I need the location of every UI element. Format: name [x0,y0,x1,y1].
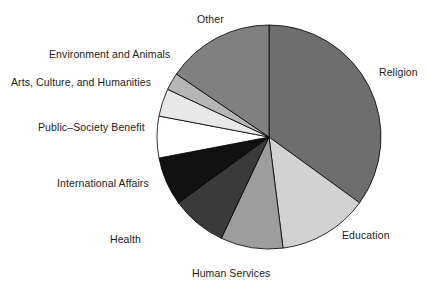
pie-label-health: Health [110,233,141,245]
pie-chart-canvas [0,0,429,289]
pie-label-education: Education [342,229,390,241]
pie-label-public-society-benefit: Public–Society Benefit [38,121,145,133]
pie-slices-group [157,25,381,249]
pie-label-international-affairs: International Affairs [57,177,149,189]
pie-chart-figure: Religion Education Human Services Health… [0,0,429,289]
pie-label-other: Other [197,13,224,25]
pie-label-human-services: Human Services [192,267,270,279]
pie-label-environment-animals: Environment and Animals [49,48,170,60]
pie-label-arts-culture-humanities: Arts, Culture, and Humanities [11,76,151,88]
pie-label-religion: Religion [379,66,418,78]
